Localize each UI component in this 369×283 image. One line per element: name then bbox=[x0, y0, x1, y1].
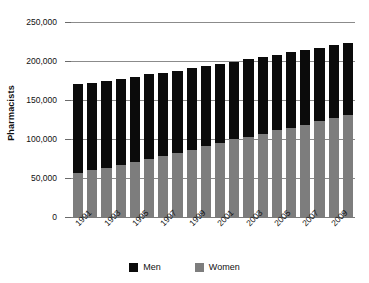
x-axis-labels: 1991199319951997199920012003200520072009 bbox=[0, 218, 369, 258]
bar-1997[interactable] bbox=[158, 73, 168, 217]
bar-segment-men-2004 bbox=[258, 57, 268, 133]
bar-segment-women-2008 bbox=[314, 121, 324, 217]
bar-segment-men-1997 bbox=[158, 73, 168, 156]
bar-segment-women-2004 bbox=[258, 134, 268, 217]
bar-segment-women-1995 bbox=[130, 162, 140, 217]
bar-segment-men-1999 bbox=[187, 68, 197, 150]
bar-1992[interactable] bbox=[87, 83, 97, 217]
bar-2000[interactable] bbox=[201, 66, 211, 217]
bar-segment-men-2002 bbox=[229, 62, 239, 139]
legend-item-men[interactable]: Men bbox=[129, 262, 161, 272]
legend-swatch-women-icon bbox=[195, 263, 204, 272]
bar-segment-women-1998 bbox=[172, 153, 182, 217]
bar-2007[interactable] bbox=[300, 50, 310, 217]
legend-label-men: Men bbox=[143, 262, 161, 272]
bar-2009[interactable] bbox=[329, 45, 339, 217]
bar-2001[interactable] bbox=[215, 64, 225, 217]
chart-screenshot: Pharmacists 050,000100,000150,000200,000… bbox=[0, 0, 369, 283]
bar-segment-women-2009 bbox=[329, 118, 339, 217]
bar-1991[interactable] bbox=[73, 84, 83, 217]
bar-segment-women-2005 bbox=[272, 130, 282, 217]
bar-segment-men-1992 bbox=[87, 83, 97, 170]
y-tick-label-100000: 100,000 bbox=[26, 134, 57, 144]
bar-segment-men-1993 bbox=[101, 81, 111, 168]
bar-segment-men-2007 bbox=[300, 50, 310, 125]
gridline-50000 bbox=[71, 178, 355, 179]
gridline-100000 bbox=[71, 139, 355, 140]
gridline-150000 bbox=[71, 100, 355, 101]
y-tick-label-250000: 250,000 bbox=[26, 17, 57, 27]
bar-segment-men-2008 bbox=[314, 48, 324, 121]
bar-segment-women-2010 bbox=[343, 115, 353, 217]
bar-segment-women-1997 bbox=[158, 156, 168, 217]
bar-segment-women-2006 bbox=[286, 128, 296, 217]
bar-1998[interactable] bbox=[172, 71, 182, 217]
bar-segment-women-2002 bbox=[229, 139, 239, 217]
bar-segment-men-1996 bbox=[144, 74, 154, 158]
y-tick-label-50000: 50,000 bbox=[31, 173, 57, 183]
bar-segment-men-1991 bbox=[73, 84, 83, 173]
chart-legend: MenWomen bbox=[0, 262, 369, 272]
plot-area bbox=[71, 22, 355, 217]
bar-segment-women-1991 bbox=[73, 173, 83, 217]
bar-segment-women-2000 bbox=[201, 146, 211, 217]
bar-segment-men-2000 bbox=[201, 66, 211, 146]
legend-label-women: Women bbox=[209, 262, 240, 272]
bar-2008[interactable] bbox=[314, 48, 324, 217]
bar-segment-women-2007 bbox=[300, 125, 310, 217]
bar-segment-men-1994 bbox=[116, 79, 126, 165]
legend-swatch-men-icon bbox=[129, 263, 138, 272]
bar-2004[interactable] bbox=[258, 57, 268, 217]
bar-1993[interactable] bbox=[101, 81, 111, 217]
bar-2002[interactable] bbox=[229, 62, 239, 217]
bar-1994[interactable] bbox=[116, 79, 126, 217]
bar-segment-men-2005 bbox=[272, 55, 282, 131]
bar-1996[interactable] bbox=[144, 74, 154, 217]
bar-segment-women-1996 bbox=[144, 159, 154, 218]
bar-2005[interactable] bbox=[272, 55, 282, 217]
bar-segment-men-2006 bbox=[286, 52, 296, 128]
bar-segment-men-1998 bbox=[172, 71, 182, 153]
bar-segment-men-2003 bbox=[243, 59, 253, 137]
bar-segment-men-2009 bbox=[329, 45, 339, 118]
bar-segment-women-2001 bbox=[215, 143, 225, 217]
bar-segment-men-2001 bbox=[215, 64, 225, 143]
bar-segment-men-2010 bbox=[343, 43, 353, 115]
gridline-200000 bbox=[71, 61, 355, 62]
bar-1995[interactable] bbox=[130, 77, 140, 217]
bar-2003[interactable] bbox=[243, 59, 253, 217]
bar-segment-women-2003 bbox=[243, 137, 253, 217]
bar-2006[interactable] bbox=[286, 52, 296, 217]
bar-2010[interactable] bbox=[343, 43, 353, 217]
gridline-250000 bbox=[71, 22, 355, 23]
bar-segment-women-1993 bbox=[101, 168, 111, 217]
y-tick-label-200000: 200,000 bbox=[26, 56, 57, 66]
y-tick-label-150000: 150,000 bbox=[26, 95, 57, 105]
legend-item-women[interactable]: Women bbox=[195, 262, 240, 272]
bar-segment-women-1999 bbox=[187, 150, 197, 217]
bar-segment-men-1995 bbox=[130, 77, 140, 161]
bar-1999[interactable] bbox=[187, 68, 197, 217]
